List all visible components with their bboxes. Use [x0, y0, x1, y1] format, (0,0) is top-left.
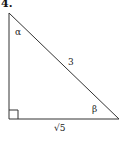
- angle-alpha-label: α: [15, 27, 21, 37]
- base-label: √5: [54, 123, 65, 133]
- triangle-figure: 4. α 3 β √5: [0, 0, 129, 142]
- right-triangle: [0, 0, 129, 142]
- right-angle-marker: [9, 110, 18, 119]
- angle-beta-label: β: [92, 104, 97, 114]
- hypotenuse-label: 3: [68, 57, 74, 67]
